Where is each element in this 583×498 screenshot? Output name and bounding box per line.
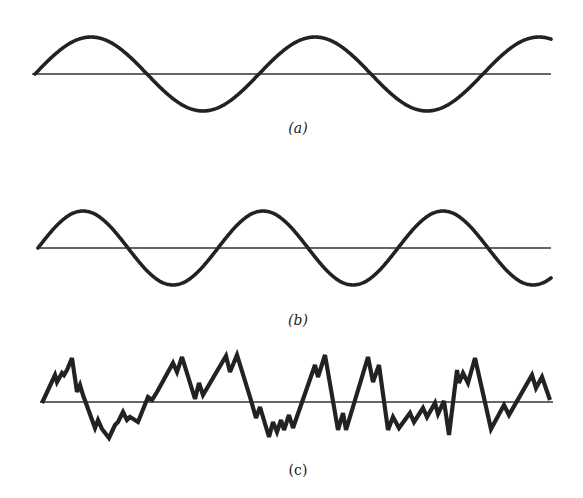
panel-c	[40, 355, 553, 438]
panel-b-caption: (b)	[288, 312, 308, 328]
panel-c-noisy-wave	[42, 355, 550, 438]
panel-c-caption: (c)	[289, 462, 308, 478]
panel-b	[38, 211, 551, 285]
panel-a-caption: (a)	[288, 120, 307, 136]
waveform-figure	[0, 0, 583, 498]
panel-a	[32, 37, 551, 111]
